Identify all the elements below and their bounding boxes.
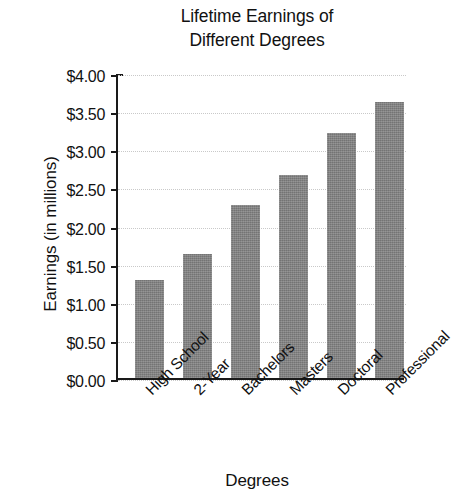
y-axis-tick-label: $1.00 xyxy=(66,296,105,315)
y-axis-tick: $3.50 xyxy=(111,113,118,115)
y-axis-tick: $2.50 xyxy=(111,189,118,191)
y-axis-tick: $2.00 xyxy=(111,228,118,230)
y-axis-tick: $0.50 xyxy=(111,342,118,344)
gridline xyxy=(118,266,406,267)
y-axis-tick-label: $3.00 xyxy=(66,143,105,162)
gridline xyxy=(118,151,406,152)
bar xyxy=(231,205,260,378)
y-axis-tick-label: $2.50 xyxy=(66,181,105,200)
y-axis-tick-label: $0.50 xyxy=(66,334,105,353)
x-axis-title: Degrees xyxy=(110,471,404,491)
gridline xyxy=(118,113,406,114)
gridline xyxy=(118,189,406,190)
y-axis-tick-label: $0.00 xyxy=(66,372,105,391)
plot-area: $0.00$0.50$1.00$1.50$2.00$2.50$3.00$3.50… xyxy=(116,75,404,380)
chart-title: Lifetime Earnings of Different Degrees xyxy=(110,4,404,52)
bar xyxy=(375,102,404,378)
y-axis-title: Earnings (in millions) xyxy=(41,156,60,312)
y-axis-tick-label: $2.00 xyxy=(66,220,105,239)
y-axis-tick: $1.50 xyxy=(111,266,118,268)
y-axis-tick: $4.00 xyxy=(111,75,118,77)
y-axis-tick-label: $3.50 xyxy=(66,105,105,124)
bar xyxy=(327,133,356,378)
y-axis-tick: $1.00 xyxy=(111,304,118,306)
y-axis-title-wrapper: Earnings (in millions) xyxy=(41,79,65,389)
y-axis-tick: $0.00 xyxy=(111,380,118,382)
y-axis-tick: $3.00 xyxy=(111,151,118,153)
gridline xyxy=(118,75,406,76)
y-axis-tick-label: $4.00 xyxy=(66,67,105,86)
gridline xyxy=(118,228,406,229)
bar xyxy=(135,280,164,378)
y-axis-tick-label: $1.50 xyxy=(66,258,105,277)
